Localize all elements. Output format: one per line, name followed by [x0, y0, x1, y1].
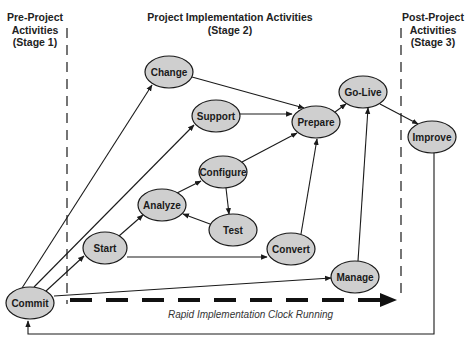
node-test: Test [209, 214, 257, 246]
edge-prepare-golive [335, 104, 346, 112]
clock-bar [70, 293, 397, 307]
edge-commit-start [46, 256, 84, 291]
edge-configure-test [226, 188, 229, 214]
node-commit-label: Commit [11, 298, 49, 309]
node-configure: Configure [199, 156, 247, 188]
node-prepare-label: Prepare [297, 117, 335, 128]
edge-start-analyze [119, 215, 143, 236]
edge-commit-manage [54, 278, 331, 296]
edge-configure-prepare [242, 133, 297, 162]
node-support-label: Support [197, 111, 236, 122]
node-prepare: Prepare [292, 106, 340, 138]
diagram-canvas: Commit Start Change Support Analyze Conf… [0, 0, 466, 346]
node-start-label: Start [94, 243, 117, 254]
node-manage: Manage [331, 261, 379, 293]
node-test-label: Test [223, 225, 243, 236]
node-change: Change [145, 56, 193, 88]
node-support: Support [192, 100, 240, 132]
edge-manage-golive [358, 108, 368, 261]
node-analyze: Analyze [138, 189, 186, 221]
node-manage-label: Manage [336, 272, 374, 283]
node-start: Start [83, 232, 127, 264]
clock-label: Rapid Implementation Clock Running [168, 309, 333, 320]
node-improve: Improve [408, 121, 456, 153]
edge-analyze-configure [177, 181, 201, 193]
node-analyze-label: Analyze [143, 200, 181, 211]
edge-golive-improve [380, 104, 418, 124]
clock-arrow-icon [380, 293, 397, 307]
node-change-label: Change [151, 67, 188, 78]
node-commit: Commit [6, 287, 54, 319]
node-configure-label: Configure [199, 167, 247, 178]
edge-test-analyze [183, 214, 210, 224]
node-golive-label: Go-Live [344, 87, 382, 98]
node-improve-label: Improve [413, 132, 452, 143]
edge-convert-prepare [301, 139, 317, 234]
node-convert: Convert [267, 233, 315, 265]
node-golive: Go-Live [339, 76, 387, 108]
node-convert-label: Convert [272, 244, 310, 255]
